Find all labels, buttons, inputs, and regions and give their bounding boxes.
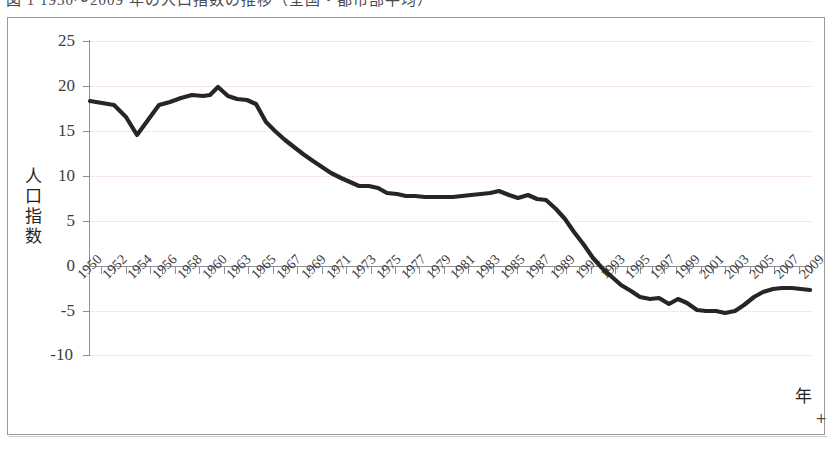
plus-marker: + bbox=[815, 411, 827, 425]
chart-area: 25 20 15 10 5 0 -5 -10 人 口 指 数 年 1950195… bbox=[0, 0, 833, 449]
series-svg bbox=[0, 0, 833, 449]
series-line-population-index bbox=[90, 87, 810, 313]
